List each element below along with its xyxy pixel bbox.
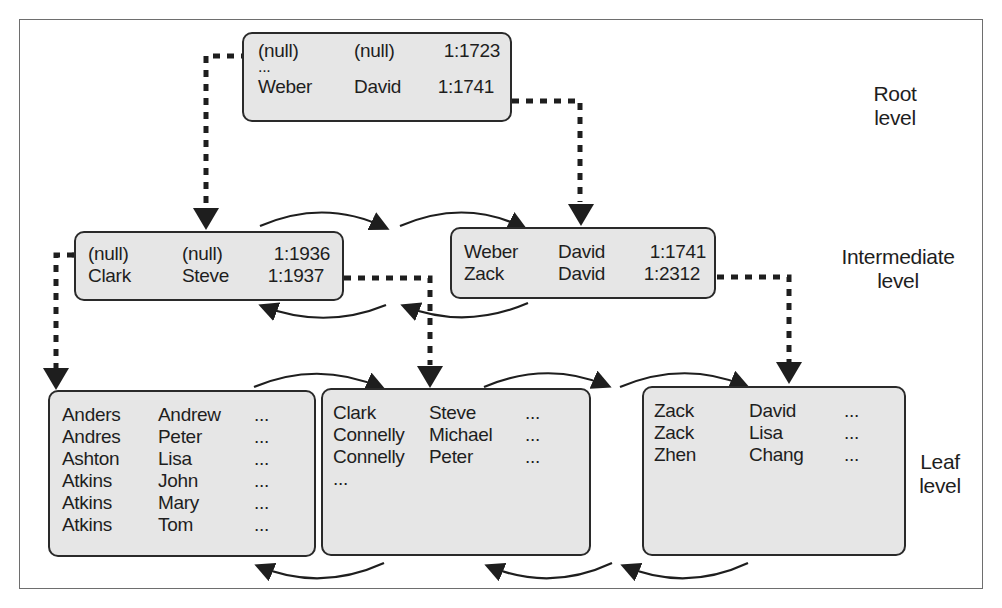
page-pointer: 1:2312 xyxy=(630,263,700,285)
index-row: Zack David 1:2312 xyxy=(452,263,714,285)
leaf-row: Zack Lisa ... xyxy=(644,422,904,444)
label-line: Root xyxy=(855,82,935,106)
first-name: (null) xyxy=(354,40,394,62)
first-name: (null) xyxy=(182,243,222,265)
last-name: Atkins xyxy=(62,514,112,536)
label-line: Intermediate xyxy=(828,245,968,269)
row-data-ellipsis: ... xyxy=(525,446,540,468)
index-row: Clark Steve 1:1937 xyxy=(76,265,342,287)
row-data-ellipsis: ... xyxy=(254,404,269,426)
label-line: level xyxy=(828,269,968,293)
label-line: level xyxy=(855,106,935,130)
root-node: (null) (null) 1:1723 ... Weber David 1:1… xyxy=(242,32,512,122)
last-name: Atkins xyxy=(62,470,112,492)
last-name: Zack xyxy=(654,400,694,422)
first-name: Lisa xyxy=(158,448,192,470)
row-data-ellipsis: ... xyxy=(525,402,540,424)
label-line: level xyxy=(908,474,972,498)
row-data-ellipsis: ... xyxy=(844,400,859,422)
intermediate-node-2: Weber David 1:1741 Zack David 1:2312 xyxy=(450,227,716,299)
intermediate-node-1: (null) (null) 1:1936 Clark Steve 1:1937 xyxy=(74,231,344,301)
last-name: Zack xyxy=(654,422,694,444)
ellipsis: ... xyxy=(333,468,348,490)
index-row: (null) (null) 1:1723 xyxy=(244,40,510,62)
last-name: Zhen xyxy=(654,444,696,466)
last-name: Anders xyxy=(62,404,120,426)
leaf-node-2: Clark Steve ... Connelly Michael ... Con… xyxy=(321,388,591,556)
last-name: (null) xyxy=(88,243,128,265)
leaf-node-3: Zack David ... Zack Lisa ... Zhen Chang … xyxy=(642,386,906,556)
last-name: Weber xyxy=(464,241,518,263)
first-name: David xyxy=(558,263,605,285)
first-name: Lisa xyxy=(749,422,783,444)
leaf-node-1: Anders Andrew ... Andres Peter ... Ashto… xyxy=(48,390,316,557)
page-pointer: 1:1741 xyxy=(428,76,494,98)
row-data-ellipsis: ... xyxy=(844,422,859,444)
leaf-row: Atkins Tom ... xyxy=(50,514,314,536)
last-name: Clark xyxy=(88,265,131,287)
row-data-ellipsis: ... xyxy=(254,426,269,448)
first-name: Andrew xyxy=(158,404,221,426)
first-name: Steve xyxy=(429,402,476,424)
page-pointer: 1:1936 xyxy=(262,243,330,265)
last-name: Weber xyxy=(258,76,312,98)
first-name: David xyxy=(749,400,796,422)
leaf-row: Zhen Chang ... xyxy=(644,444,904,466)
intermediate-level-label: Intermediate level xyxy=(828,245,968,293)
leaf-row: Connelly Peter ... xyxy=(323,446,589,468)
last-name: Ashton xyxy=(62,448,119,470)
index-row: Weber David 1:1741 xyxy=(452,241,714,263)
first-name: David xyxy=(558,241,605,263)
first-name: John xyxy=(158,470,198,492)
leaf-row: Connelly Michael ... xyxy=(323,424,589,446)
last-name: Andres xyxy=(62,426,120,448)
first-name: Chang xyxy=(749,444,804,466)
first-name: Peter xyxy=(429,446,473,468)
index-row: (null) (null) 1:1936 xyxy=(76,243,342,265)
first-name: Peter xyxy=(158,426,202,448)
leaf-row: Atkins John ... xyxy=(50,470,314,492)
leaf-row: Atkins Mary ... xyxy=(50,492,314,514)
index-row: Weber David 1:1741 xyxy=(244,76,510,98)
row-data-ellipsis: ... xyxy=(254,492,269,514)
first-name: Steve xyxy=(182,265,229,287)
last-name: Atkins xyxy=(62,492,112,514)
last-name: Clark xyxy=(333,402,376,424)
root-level-label: Root level xyxy=(855,82,935,130)
leaf-row: Andres Peter ... xyxy=(50,426,314,448)
first-name: Michael xyxy=(429,424,492,446)
page-pointer: 1:1741 xyxy=(636,241,706,263)
ellipsis: ... xyxy=(258,62,270,72)
first-name: Tom xyxy=(158,514,193,536)
page-pointer: 1:1937 xyxy=(256,265,324,287)
leaf-level-label: Leaf level xyxy=(908,450,972,498)
leaf-row: Ashton Lisa ... xyxy=(50,448,314,470)
last-name: Zack xyxy=(464,263,504,285)
row-data-ellipsis: ... xyxy=(254,448,269,470)
leaf-row: ... xyxy=(323,468,589,490)
row-data-ellipsis: ... xyxy=(254,514,269,536)
row-data-ellipsis: ... xyxy=(254,470,269,492)
row-data-ellipsis: ... xyxy=(525,424,540,446)
row-data-ellipsis: ... xyxy=(844,444,859,466)
first-name: David xyxy=(354,76,401,98)
first-name: Mary xyxy=(158,492,199,514)
leaf-row: Anders Andrew ... xyxy=(50,404,314,426)
page-pointer: 1:1723 xyxy=(434,40,500,62)
ellipsis-row: ... xyxy=(244,62,510,76)
last-name: Connelly xyxy=(333,424,405,446)
leaf-row: Zack David ... xyxy=(644,400,904,422)
last-name: Connelly xyxy=(333,446,405,468)
label-line: Leaf xyxy=(908,450,972,474)
leaf-row: Clark Steve ... xyxy=(323,402,589,424)
